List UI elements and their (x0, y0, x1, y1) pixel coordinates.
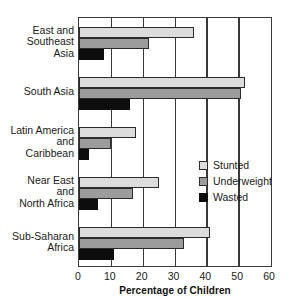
x-tick-60: 60 (263, 270, 275, 282)
legend-swatch-icon (199, 177, 208, 186)
category-label: East andSoutheastAsia (0, 25, 74, 60)
bar-underweight[interactable] (79, 138, 111, 149)
category-label-line: South Asia (0, 86, 74, 98)
category-label: Latin AmericaandCaribbean (0, 125, 74, 160)
bar-group (79, 227, 271, 260)
x-tick-0: 0 (75, 270, 81, 282)
category-label-line: Caribbean (0, 148, 74, 160)
category-label-line: Africa (0, 242, 74, 254)
legend-label: Wasted (213, 191, 248, 203)
legend-item[interactable]: Wasted (199, 190, 272, 204)
legend: StuntedUnderweightWasted (199, 158, 272, 206)
bar-stunted[interactable] (79, 227, 210, 238)
legend-label: Underweight (213, 175, 272, 187)
category-label-line: North Africa (0, 198, 74, 210)
x-tick-30: 30 (168, 270, 180, 282)
bar-group (79, 27, 271, 60)
x-tick-20: 20 (136, 270, 148, 282)
plot-area (78, 17, 272, 267)
bar-stunted[interactable] (79, 77, 245, 88)
x-tick-40: 40 (199, 270, 211, 282)
legend-item[interactable]: Stunted (199, 158, 272, 172)
bar-underweight[interactable] (79, 38, 149, 49)
bar-underweight[interactable] (79, 238, 184, 249)
bar-group (79, 127, 271, 160)
legend-swatch-icon (199, 161, 208, 170)
bar-wasted[interactable] (79, 49, 104, 60)
bar-stunted[interactable] (79, 27, 194, 38)
category-label: Sub-SaharanAfrica (0, 231, 74, 254)
x-axis-title: Percentage of Children (78, 285, 272, 296)
bar-stunted[interactable] (79, 127, 136, 138)
category-label: Near EastandNorth Africa (0, 175, 74, 210)
bar-underweight[interactable] (79, 88, 241, 99)
legend-item[interactable]: Underweight (199, 174, 272, 188)
bar-group (79, 77, 271, 110)
bar-underweight[interactable] (79, 188, 133, 199)
category-label: South Asia (0, 86, 74, 98)
bar-stunted[interactable] (79, 177, 159, 188)
bar-wasted[interactable] (79, 249, 114, 260)
bar-wasted[interactable] (79, 99, 130, 110)
category-label-line: Asia (0, 48, 74, 60)
legend-label: Stunted (213, 159, 249, 171)
legend-swatch-icon (199, 193, 208, 202)
category-axis-labels: East andSoutheastAsiaSouth AsiaLatin Ame… (0, 17, 74, 267)
bar-wasted[interactable] (79, 199, 98, 210)
bar-wasted[interactable] (79, 149, 89, 160)
clipped-title (95, 0, 215, 2)
x-tick-10: 10 (104, 270, 116, 282)
x-axis-tick-labels: 0102030405060 (0, 270, 293, 284)
bar-chart: East andSoutheastAsiaSouth AsiaLatin Ame… (0, 0, 293, 301)
x-tick-50: 50 (231, 270, 243, 282)
